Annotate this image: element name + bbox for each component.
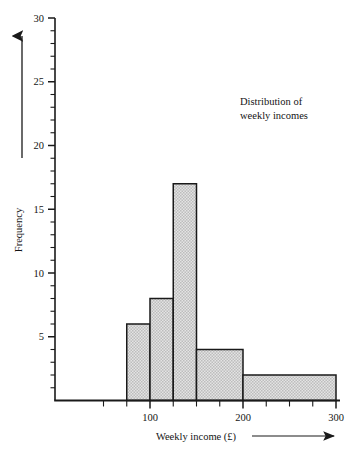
x-axis-title: Weekly income (£): [156, 431, 237, 443]
y-axis-tick-label: 15: [34, 204, 45, 215]
histogram-bar: [243, 375, 336, 401]
y-axis-tick-label: 20: [34, 140, 45, 151]
y-axis-tick-label: 25: [34, 76, 45, 87]
histogram-bar: [173, 184, 196, 401]
histogram-bar: [197, 350, 244, 401]
annotation-line-1: Distribution of: [240, 96, 303, 107]
annotation-line-2: weekly incomes: [240, 110, 308, 121]
x-axis-tick-label: 200: [235, 412, 251, 423]
chart-svg: 51015202530 100200300 Frequency Weekly i…: [0, 0, 363, 463]
histogram-bar: [150, 299, 173, 401]
x-axis-tick-label: 100: [142, 412, 158, 423]
y-axis-tick-label: 10: [34, 268, 45, 279]
y-axis-title: Frequency: [13, 207, 24, 252]
histogram-bar: [127, 324, 150, 401]
y-axis-tick-label: 5: [39, 331, 44, 342]
x-axis-tick-label: 300: [328, 412, 344, 423]
y-axis-tick-label: 30: [34, 13, 45, 24]
histogram-chart: 51015202530 100200300 Frequency Weekly i…: [0, 0, 363, 463]
